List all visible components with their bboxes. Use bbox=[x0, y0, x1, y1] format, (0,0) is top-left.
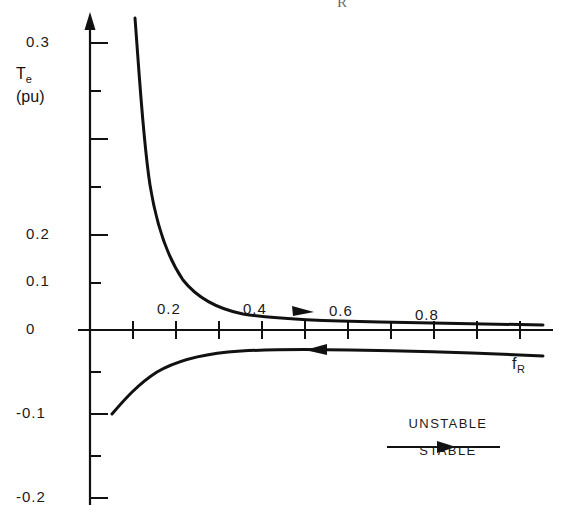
curve-stable-branch bbox=[112, 344, 543, 414]
y-axis-label: Te (pu) bbox=[16, 64, 44, 107]
x-tick-label-2: 0.6 bbox=[329, 302, 353, 319]
y-axis-label-units: (pu) bbox=[16, 87, 44, 107]
legend-arrow-spacer bbox=[383, 432, 513, 444]
curve-unstable-branch bbox=[135, 18, 543, 325]
arrow-stable-direction bbox=[305, 344, 327, 355]
legend-unstable-label: UNSTABLE bbox=[383, 417, 513, 432]
x-tick-label-3: 0.8 bbox=[415, 306, 439, 323]
x-axis-label: fR bbox=[512, 355, 525, 375]
figure-container: R bbox=[0, 0, 564, 518]
y-tick-label-1: 0.2 bbox=[26, 225, 50, 242]
y-axis bbox=[85, 12, 96, 505]
x-axis-label-subscript: R bbox=[517, 363, 525, 375]
x-tick-label-0: 0.2 bbox=[157, 300, 181, 317]
y-tick-label-0: 0.3 bbox=[26, 33, 50, 50]
legend-stable-label: STABLE bbox=[383, 444, 513, 459]
y-axis-ticks bbox=[90, 43, 108, 498]
y-axis-label-main: T bbox=[16, 65, 26, 82]
arrow-unstable-direction bbox=[292, 306, 314, 316]
y-tick-label-3: 0 bbox=[26, 320, 35, 337]
y-tick-label-2: 0.1 bbox=[26, 272, 50, 289]
y-tick-label-5: -0.2 bbox=[16, 488, 46, 505]
y-axis-label-main-line: Te bbox=[16, 64, 44, 87]
y-tick-label-4: -0.1 bbox=[16, 404, 46, 421]
x-tick-label-1: 0.4 bbox=[243, 300, 267, 317]
stability-legend: UNSTABLE STABLE bbox=[383, 417, 513, 459]
y-axis-label-subscript: e bbox=[26, 73, 32, 85]
